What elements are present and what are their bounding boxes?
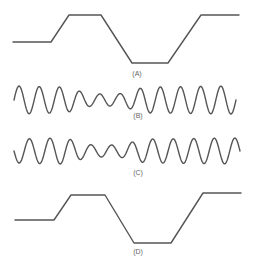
label-d: (D) [133,248,143,255]
label-b: (B) [133,112,142,119]
waveform-d-trapezoid [15,193,241,243]
label-a: (A) [132,70,141,77]
waveform-a-trapezoid [13,15,239,63]
waveform-diagram [0,0,254,265]
waveform-b-modulated [14,86,236,114]
waveform-c-modulated [14,138,240,164]
label-c: (C) [133,169,143,176]
